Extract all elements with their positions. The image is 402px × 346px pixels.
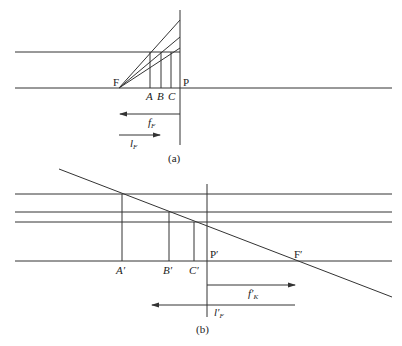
label-f-F: fF [148,116,156,130]
label-B-prime: B′ [163,264,173,276]
label-l-F-prime: l′F [214,306,224,320]
label-P-prime: P′ [210,248,219,260]
diagram-canvas: F P A B C fF lF (a) A′ B′ C′ P′ F′ f′K l… [0,0,402,346]
label-A-prime: A′ [115,264,126,276]
optics-diagram: F P A B C fF lF (a) A′ B′ C′ P′ F′ f′K l… [0,0,402,346]
label-B: B [157,90,164,102]
label-F-prime: F′ [294,248,303,260]
label-F: F [113,76,119,88]
label-C: C [168,90,176,102]
caption-a: (a) [168,152,181,165]
label-l-F: lF [130,137,138,151]
label-P: P [183,76,189,88]
figure-a [15,10,392,145]
figure-b [15,169,392,317]
figure-a-labels: F P A B C fF lF (a) [113,76,189,165]
label-C-prime: C′ [189,264,199,276]
diagonal-ray [59,169,392,297]
caption-b: (b) [196,323,209,336]
label-A: A [145,90,153,102]
label-f-K-prime: f′K [248,287,258,301]
